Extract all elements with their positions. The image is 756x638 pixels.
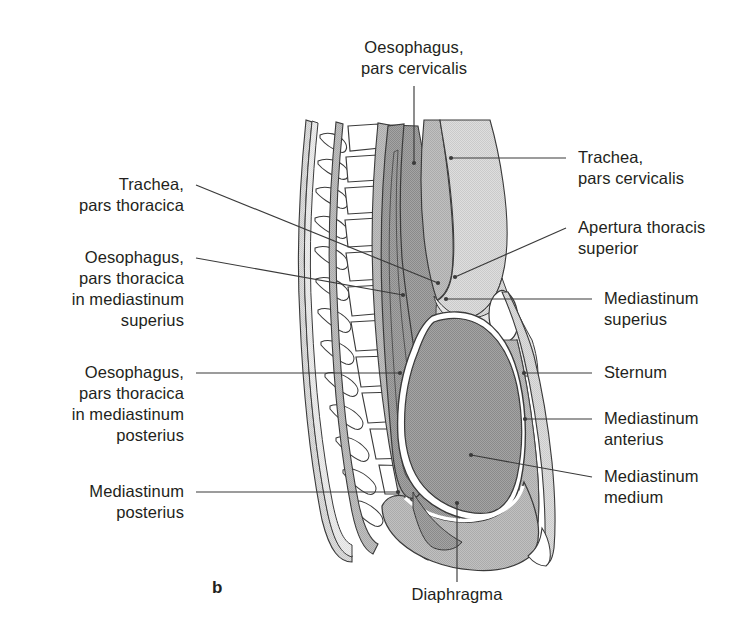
label-mediastinum-superius: Mediastinum superius (604, 288, 754, 330)
panel-letter: b (212, 578, 222, 598)
label-mediastinum-medium: Mediastinum medium (604, 466, 754, 508)
label-diaphragma: Diaphragma (387, 584, 527, 605)
label-oesophagus-mediastinum-posterius: Oesophagus, pars thoracica in mediastinu… (14, 362, 184, 446)
thoracic-cavity-group (381, 120, 555, 571)
label-oesophagus-mediastinum-superius: Oesophagus, pars thoracica in mediastinu… (14, 247, 184, 331)
label-sternum: Sternum (604, 362, 754, 383)
label-trachea-pars-thoracica: Trachea, pars thoracica (14, 174, 184, 216)
label-mediastinum-posterius: Mediastinum posterius (14, 481, 184, 523)
label-oesophagus-pars-cervicalis: Oesophagus, pars cervicalis (334, 37, 494, 79)
label-apertura-thoracis-superior: Apertura thoracis superior (578, 217, 756, 259)
label-trachea-pars-cervicalis: Trachea, pars cervicalis (578, 147, 753, 189)
label-mediastinum-anterius: Mediastinum anterius (604, 408, 754, 450)
